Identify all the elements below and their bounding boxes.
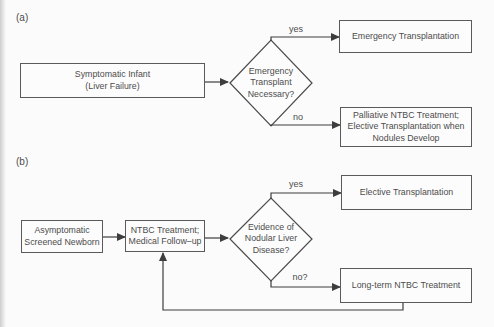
node-ntbc-treatment-followup: NTBC Treatment; Medical Follow–up <box>125 220 205 252</box>
node-elective-transplantation: Elective Transplantation <box>341 175 472 210</box>
branch-label-a-yes: yes <box>282 24 310 34</box>
flowchart-canvas: (a) Symptomatic Infant (Liver Failure) E… <box>0 0 494 327</box>
branch-label-b-yes: yes <box>282 179 310 189</box>
connector-a-no <box>271 125 340 126</box>
panel-b-label: (b) <box>16 156 28 167</box>
branch-label-b-no: no? <box>284 272 316 282</box>
node-symptomatic-infant: Symptomatic Infant (Liver Failure) <box>20 63 205 98</box>
decision-diamond-b <box>230 198 312 281</box>
branch-label-a-no: no <box>284 112 312 122</box>
panel-a-label: (a) <box>16 12 28 23</box>
connector-b-yes <box>271 193 341 199</box>
node-asymptomatic-newborn: Asymptomatic Screened Newborn <box>21 220 103 253</box>
node-palliative-ntbc-treatment: Palliative NTBC Treatment; Elective Tran… <box>340 107 472 147</box>
node-emergency-transplantation: Emergency Transplantation <box>339 20 472 53</box>
connector-a-yes <box>271 37 339 41</box>
node-longterm-ntbc-treatment: Long-term NTBC Treatment <box>340 268 472 303</box>
